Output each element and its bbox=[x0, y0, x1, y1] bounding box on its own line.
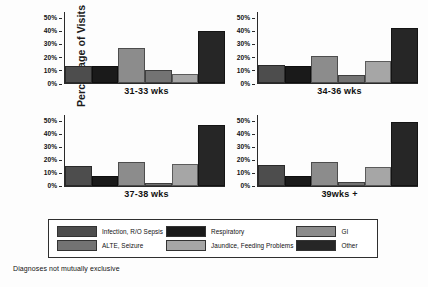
chart-legend: Infection, R/O SepsisRespiratoryGIALTE, … bbox=[48, 219, 378, 258]
y-tick-label: 50% bbox=[237, 15, 252, 22]
y-tick-mark bbox=[59, 18, 62, 19]
legend-label: Jaundice, Feeding Problems bbox=[211, 242, 293, 249]
bar bbox=[92, 176, 119, 186]
y-tick-label: 30% bbox=[237, 41, 252, 48]
bar bbox=[118, 48, 145, 83]
y-tick-mark bbox=[59, 31, 62, 32]
panel-4: 50%40%30%20%10%0%39wks + bbox=[229, 111, 422, 214]
panel-2: 50%40%30%20%10%0%34-36 wks bbox=[229, 8, 422, 111]
y-tick-mark bbox=[252, 160, 255, 161]
panel-3: 50%40%30%20%10%0%37-38 wks bbox=[36, 111, 229, 214]
y-tick-mark bbox=[252, 70, 255, 71]
y-tick-label: 20% bbox=[237, 157, 252, 164]
panel-title: 39wks + bbox=[257, 189, 422, 199]
y-tick-label: 0% bbox=[240, 81, 252, 88]
legend-label: GI bbox=[341, 228, 348, 235]
legend-item: Jaundice, Feeding Problems bbox=[163, 240, 293, 251]
x-axis-line bbox=[257, 186, 418, 187]
y-tick-mark bbox=[59, 57, 62, 58]
legend-label: Other bbox=[341, 242, 357, 249]
bar-group bbox=[65, 12, 225, 83]
legend-item: Respiratory bbox=[163, 226, 293, 237]
y-tick-label: 40% bbox=[44, 131, 59, 138]
bar bbox=[311, 56, 338, 83]
y-tick-mark bbox=[252, 84, 255, 85]
panel-inner: 50%40%30%20%10%0%37-38 wks bbox=[36, 111, 229, 214]
y-tick-label: 50% bbox=[237, 118, 252, 125]
legend-swatch bbox=[57, 240, 97, 251]
plot-box bbox=[257, 115, 418, 187]
y-tick-mark bbox=[252, 173, 255, 174]
bar bbox=[365, 167, 392, 186]
legend-item: Infection, R/O Sepsis bbox=[54, 226, 163, 237]
legend-label: ALTE, Seizure bbox=[102, 242, 143, 249]
y-tick-mark bbox=[252, 44, 255, 45]
panel-title: 34-36 wks bbox=[257, 86, 422, 96]
plot-area: Percentage of Visits 50%40%30%20%10%0%31… bbox=[26, 8, 422, 213]
plot-box bbox=[257, 12, 418, 84]
y-axis-ticks: 50%40%30%20%10%0% bbox=[229, 115, 255, 187]
y-tick-mark bbox=[59, 84, 62, 85]
bar bbox=[258, 165, 285, 186]
y-tick-mark bbox=[59, 70, 62, 71]
bar bbox=[338, 75, 365, 83]
y-tick-label: 20% bbox=[237, 55, 252, 62]
bar bbox=[198, 125, 225, 186]
bar bbox=[145, 183, 172, 186]
y-tick-mark bbox=[252, 134, 255, 135]
legend-swatch bbox=[57, 226, 97, 237]
legend-item: GI bbox=[293, 226, 372, 237]
chart-footnote: Diagnoses not mutually exclusive bbox=[13, 265, 120, 272]
y-tick-mark bbox=[252, 18, 255, 19]
y-tick-label: 10% bbox=[237, 68, 252, 75]
y-axis-ticks: 50%40%30%20%10%0% bbox=[229, 12, 255, 84]
y-tick-mark bbox=[59, 160, 62, 161]
panel-1: 50%40%30%20%10%0%31-33 wks bbox=[36, 8, 229, 111]
y-tick-mark bbox=[59, 173, 62, 174]
y-tick-mark bbox=[252, 31, 255, 32]
y-tick-mark bbox=[252, 121, 255, 122]
y-tick-mark bbox=[59, 134, 62, 135]
bar bbox=[338, 182, 365, 186]
y-tick-mark bbox=[59, 147, 62, 148]
bar bbox=[92, 66, 119, 83]
legend-item: ALTE, Seizure bbox=[54, 240, 163, 251]
panel-title: 37-38 wks bbox=[64, 189, 229, 199]
y-tick-label: 10% bbox=[237, 170, 252, 177]
y-tick-mark bbox=[59, 186, 62, 187]
bar-group bbox=[258, 12, 418, 83]
y-tick-label: 0% bbox=[240, 183, 252, 190]
y-tick-label: 0% bbox=[47, 81, 59, 88]
bar bbox=[285, 176, 312, 186]
y-tick-mark bbox=[252, 57, 255, 58]
y-tick-label: 40% bbox=[237, 28, 252, 35]
bar bbox=[391, 122, 418, 185]
bar bbox=[172, 164, 199, 186]
bar bbox=[285, 66, 312, 83]
y-tick-label: 50% bbox=[44, 118, 59, 125]
legend-label: Respiratory bbox=[211, 228, 244, 235]
legend-label: Infection, R/O Sepsis bbox=[102, 228, 163, 235]
bar bbox=[258, 65, 285, 83]
x-axis-line bbox=[257, 83, 418, 84]
legend-grid: Infection, R/O SepsisRespiratoryGIALTE, … bbox=[54, 224, 372, 253]
bar bbox=[118, 162, 145, 186]
y-tick-label: 50% bbox=[44, 15, 59, 22]
y-tick-label: 20% bbox=[44, 55, 59, 62]
bar-group bbox=[258, 115, 418, 186]
legend-swatch bbox=[166, 226, 206, 237]
y-tick-mark bbox=[59, 121, 62, 122]
y-tick-label: 10% bbox=[44, 170, 59, 177]
y-tick-label: 20% bbox=[44, 157, 59, 164]
x-axis-line bbox=[64, 83, 225, 84]
legend-swatch bbox=[166, 240, 206, 251]
bar bbox=[65, 166, 92, 185]
y-tick-mark bbox=[252, 186, 255, 187]
x-axis-line bbox=[64, 186, 225, 187]
y-tick-label: 30% bbox=[237, 144, 252, 151]
panel-inner: 50%40%30%20%10%0%31-33 wks bbox=[36, 8, 229, 111]
legend-swatch bbox=[296, 240, 336, 251]
bar bbox=[145, 70, 172, 83]
bar bbox=[365, 61, 392, 83]
bar bbox=[172, 74, 199, 83]
